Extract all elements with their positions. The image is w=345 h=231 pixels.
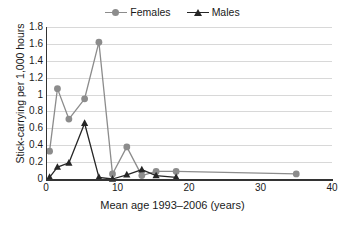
- legend-swatch-females: [105, 7, 127, 18]
- x-tick-label: 40: [326, 183, 337, 193]
- y-tick-label: 1: [37, 90, 43, 100]
- plot-area: [46, 27, 332, 179]
- legend-label-males: Males: [212, 7, 240, 18]
- y-tick-label: 1.6: [29, 39, 43, 49]
- x-tick-label: 10: [112, 183, 123, 193]
- legend-label-females: Females: [130, 7, 170, 18]
- data-point-circle: [81, 95, 88, 102]
- legend-swatch-males: [187, 7, 209, 18]
- y-tick-label: 0.6: [29, 123, 43, 133]
- x-tick-label: 20: [183, 183, 194, 193]
- data-point-circle: [293, 171, 300, 178]
- data-point-triangle: [138, 166, 145, 173]
- triangle-marker-icon: [194, 9, 202, 16]
- data-point-circle: [138, 172, 145, 179]
- legend-entry-males: Males: [187, 7, 240, 18]
- data-point-triangle: [81, 119, 88, 126]
- circle-marker-icon: [112, 9, 119, 16]
- x-axis-ticks: 010203040: [0, 183, 345, 197]
- y-tick-label: 1.2: [29, 73, 43, 83]
- x-axis-title: Mean age 1993–2006 (years): [0, 199, 345, 211]
- chart-legend: Females Males: [0, 3, 345, 21]
- y-tick-label: 0.4: [29, 140, 43, 150]
- y-tick-label: 1.4: [29, 56, 43, 66]
- x-axis-line: [46, 179, 333, 181]
- data-point-circle: [96, 39, 103, 46]
- series-females: [46, 39, 299, 179]
- y-tick-label: 0.8: [29, 106, 43, 116]
- y-axis-line: [46, 27, 47, 180]
- data-point-circle: [65, 116, 72, 123]
- data-point-triangle: [65, 159, 72, 166]
- data-layer: [46, 27, 332, 179]
- data-point-circle: [123, 144, 130, 151]
- series-line: [50, 42, 297, 175]
- x-tick-label: 0: [43, 183, 49, 193]
- y-tick-label: 1.8: [29, 22, 43, 32]
- legend-entry-females: Females: [105, 7, 170, 18]
- chart-figure: Females Males 00.20.40.60.811.21.41.61.8…: [0, 0, 345, 231]
- y-axis-title: Stick-carrying per 1,000 hours: [15, 19, 26, 169]
- data-point-circle: [54, 85, 61, 92]
- x-tick-label: 30: [255, 183, 266, 193]
- y-tick-label: 0.2: [29, 157, 43, 167]
